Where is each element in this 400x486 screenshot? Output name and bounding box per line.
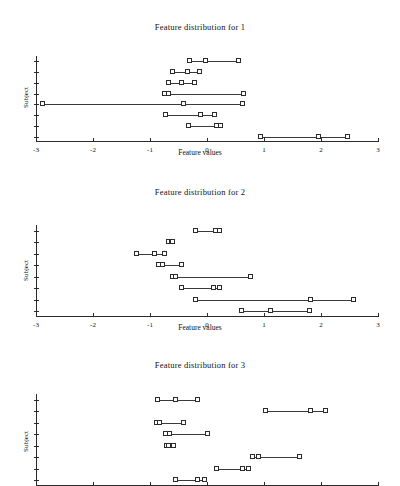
x-axis-tick <box>36 313 37 317</box>
plot-area <box>36 56 378 142</box>
x-axis-tick <box>93 482 94 486</box>
series-row <box>36 277 378 278</box>
series-range-line <box>266 411 326 412</box>
series-row <box>36 104 378 105</box>
plot-area <box>36 394 378 486</box>
chart-panel-2: Feature distribution for 2-3-2-10123Feat… <box>0 165 400 340</box>
data-point-marker <box>308 297 313 302</box>
data-point-marker <box>214 466 219 471</box>
data-point-marker <box>193 297 198 302</box>
data-point-marker <box>162 251 167 256</box>
data-point-marker <box>246 466 251 471</box>
data-point-marker <box>250 454 255 459</box>
data-point-marker <box>173 477 178 482</box>
data-point-marker <box>198 112 203 117</box>
series-range-line <box>158 400 198 401</box>
series-range-line <box>166 115 215 116</box>
y-axis-label: Subject <box>22 431 30 452</box>
data-point-marker <box>256 454 261 459</box>
data-point-marker <box>297 454 302 459</box>
series-row <box>36 83 378 84</box>
series-row <box>36 61 378 62</box>
series-row <box>36 242 378 243</box>
data-point-marker <box>179 262 184 267</box>
x-axis-tick <box>207 482 208 486</box>
y-axis-label: Subject <box>22 87 30 108</box>
series-row <box>36 300 378 301</box>
data-point-marker <box>268 308 273 313</box>
data-point-marker <box>186 123 191 128</box>
data-point-marker <box>193 228 198 233</box>
series-row <box>36 126 378 127</box>
data-point-marker <box>166 91 171 96</box>
series-row <box>36 94 378 95</box>
data-point-marker <box>217 285 222 290</box>
chart-title: Feature distribution for 2 <box>0 187 400 197</box>
x-axis-label: Feature values <box>0 323 400 332</box>
series-row <box>36 480 378 481</box>
data-point-marker <box>308 408 313 413</box>
data-point-marker <box>173 274 178 279</box>
plot-area <box>36 225 378 317</box>
x-axis-tick <box>378 313 379 317</box>
series-row <box>36 434 378 435</box>
data-point-marker <box>134 251 139 256</box>
data-point-marker <box>197 69 202 74</box>
series-row <box>36 137 378 138</box>
series-row <box>36 411 378 412</box>
data-point-marker <box>152 251 157 256</box>
series-range-line <box>196 300 354 301</box>
series-range-line <box>190 61 240 62</box>
chart-title: Feature distribution for 1 <box>0 22 400 32</box>
series-range-line <box>165 94 244 95</box>
data-point-marker <box>170 69 175 74</box>
data-point-marker <box>170 239 175 244</box>
data-point-marker <box>212 112 217 117</box>
y-axis-line <box>36 225 37 317</box>
series-row <box>36 115 378 116</box>
data-point-marker <box>307 308 312 313</box>
x-axis-tick <box>36 482 37 486</box>
series-row <box>36 469 378 470</box>
x-axis-label: Feature values <box>0 148 400 157</box>
data-point-marker <box>181 420 186 425</box>
x-axis-tick <box>321 482 322 486</box>
data-point-marker <box>236 58 241 63</box>
x-axis-tick <box>378 482 379 486</box>
x-axis-tick <box>150 138 151 142</box>
series-range-line <box>166 434 208 435</box>
data-point-marker <box>195 477 200 482</box>
chart-panel-3: Feature distribution for 3Subject <box>0 340 400 461</box>
series-row <box>36 457 378 458</box>
data-point-marker <box>218 123 223 128</box>
data-point-marker <box>323 408 328 413</box>
data-point-marker <box>195 397 200 402</box>
series-row <box>36 288 378 289</box>
x-axis-tick <box>264 313 265 317</box>
data-point-marker <box>173 397 178 402</box>
data-point-marker <box>203 58 208 63</box>
data-point-marker <box>40 101 45 106</box>
x-axis-tick <box>321 313 322 317</box>
series-range-line <box>176 480 205 481</box>
x-axis-tick <box>264 482 265 486</box>
data-point-marker <box>163 112 168 117</box>
data-point-marker <box>345 134 350 139</box>
data-point-marker <box>258 134 263 139</box>
data-point-marker <box>241 91 246 96</box>
x-axis-tick <box>378 138 379 142</box>
x-axis-tick <box>36 138 37 142</box>
series-row <box>36 254 378 255</box>
x-axis-tick <box>150 482 151 486</box>
series-range-line <box>173 277 252 278</box>
data-point-marker <box>202 477 207 482</box>
data-point-marker <box>166 80 171 85</box>
data-point-marker <box>217 228 222 233</box>
chart-panel-1: Feature distribution for 1-3-2-10123Feat… <box>0 0 400 165</box>
data-point-marker <box>155 397 160 402</box>
y-axis-line <box>36 394 37 486</box>
data-point-marker <box>187 58 192 63</box>
data-point-marker <box>167 431 172 436</box>
series-range-line <box>43 104 243 105</box>
